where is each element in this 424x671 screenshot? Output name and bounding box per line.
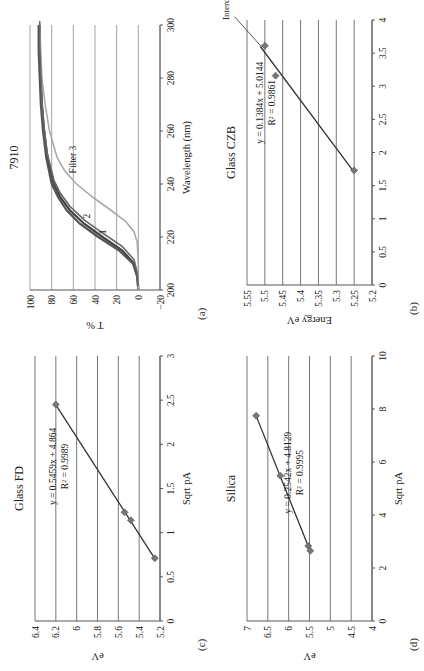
panel-b: Glass CZB5.25.255.35.355.45.455.55.5500.… bbox=[212, 0, 424, 335]
y-tick-label: 7 bbox=[243, 626, 253, 631]
x-tick-label: 3.5 bbox=[378, 47, 388, 59]
intercept-callout-line bbox=[235, 17, 262, 47]
chart-title: Silica bbox=[224, 474, 238, 502]
x-tick-label: 1 bbox=[166, 530, 176, 535]
x-axis-label: Sqrt pA bbox=[181, 472, 192, 505]
r-squared: R² = 0.9995 bbox=[295, 450, 305, 496]
x-tick-label: 0.5 bbox=[166, 571, 176, 583]
panel-a: 7910−20020406080100200220240260280300Wav… bbox=[0, 0, 212, 335]
x-tick-label: 0 bbox=[378, 618, 388, 623]
y-axis-label: T % bbox=[86, 320, 104, 331]
x-tick-label: 1 bbox=[378, 216, 388, 221]
x-axis-label: Sqrt pA bbox=[393, 472, 404, 505]
gridlines bbox=[247, 20, 372, 285]
y-tick-label: 6.4 bbox=[31, 626, 41, 638]
y-tick-label: 5.4 bbox=[296, 290, 306, 302]
y-tick-label: 5.3 bbox=[332, 290, 342, 302]
y-tick-label: 100 bbox=[26, 295, 36, 310]
annotation-2: 2 bbox=[82, 213, 92, 218]
r-squared: R² = 0.9861 bbox=[267, 80, 277, 126]
x-tick-label: 280 bbox=[166, 71, 176, 86]
y-tick-label: 5.55 bbox=[243, 290, 253, 307]
y-axis-label: eV bbox=[303, 651, 316, 662]
y-tick-label: 5.6 bbox=[114, 626, 124, 638]
x-axis-label: Wavelength (nm) bbox=[181, 121, 193, 194]
x-tick-label: 3 bbox=[166, 353, 176, 358]
annotation-1: 1 bbox=[98, 229, 108, 234]
chart-title: Glass FD bbox=[12, 466, 26, 511]
panel-label: (a) bbox=[195, 307, 208, 320]
x-tick-label: 2.5 bbox=[378, 113, 388, 125]
y-tick-label: 4 bbox=[368, 626, 378, 631]
y-tick-label: 4.5 bbox=[347, 626, 357, 638]
y-tick-label: 40 bbox=[91, 295, 101, 305]
y-tick-label: 5.8 bbox=[93, 626, 103, 638]
annotation-filter-3: Filter 3 bbox=[68, 145, 78, 173]
trendline-equation: y = 0.2542x + 4.8129 bbox=[283, 431, 293, 513]
x-tick-label: 0 bbox=[378, 282, 388, 287]
trendline bbox=[56, 405, 155, 559]
x-tick-label: 2.5 bbox=[166, 394, 176, 406]
y-tick-label: 5.25 bbox=[350, 290, 360, 307]
x-tick-label: 2 bbox=[378, 150, 388, 155]
chart-title: Glass CZB bbox=[224, 126, 238, 179]
y-tick-label: 6 bbox=[72, 626, 82, 631]
y-tick-label: 6.5 bbox=[263, 626, 273, 638]
chart-glass-czb: Glass CZB5.25.255.35.355.45.455.55.5500.… bbox=[212, 0, 424, 335]
y-tick-label: 5 bbox=[326, 626, 336, 631]
panel-label: (b) bbox=[407, 302, 420, 315]
chart-silica: Silica44.555.566.570246810Sqrt pAeV(d)y … bbox=[212, 336, 424, 671]
chart-7910: 7910−20020406080100200220240260280300Wav… bbox=[0, 0, 212, 335]
y-tick-label: 5.2 bbox=[156, 626, 166, 638]
panel-label: (d) bbox=[407, 638, 420, 651]
y-tick-label: 20 bbox=[112, 295, 122, 305]
data-point-marker bbox=[253, 412, 260, 419]
y-tick-label: 0 bbox=[134, 295, 144, 300]
y-tick-label: 6.2 bbox=[51, 626, 61, 638]
y-tick-label: 6 bbox=[284, 626, 294, 631]
chart-glass-fd: Glass FD5.25.45.65.866.26.400.511.522.53… bbox=[0, 336, 212, 671]
y-axis-label: Energy eV bbox=[287, 315, 332, 326]
y-tick-label: 5.5 bbox=[260, 290, 270, 302]
x-tick-label: 8 bbox=[378, 406, 388, 411]
x-tick-label: 3 bbox=[378, 84, 388, 89]
gridlines bbox=[247, 356, 372, 621]
x-tick-label: 0.5 bbox=[378, 246, 388, 258]
x-tick-label: 6 bbox=[378, 459, 388, 464]
data-point-marker bbox=[52, 401, 59, 408]
x-tick-label: 2 bbox=[166, 442, 176, 447]
x-tick-label: 4 bbox=[378, 512, 388, 517]
x-tick-label: 220 bbox=[166, 230, 176, 245]
data-point-marker bbox=[272, 72, 279, 79]
panel-label: (c) bbox=[195, 638, 208, 651]
x-tick-label: 200 bbox=[166, 283, 176, 298]
x-tick-label: 260 bbox=[166, 124, 176, 139]
y-axis-label: eV bbox=[91, 651, 104, 662]
y-tick-label: 60 bbox=[69, 295, 79, 305]
x-tick-label: 2 bbox=[378, 565, 388, 570]
x-tick-label: 240 bbox=[166, 177, 176, 192]
x-tick-label: 0 bbox=[166, 618, 176, 623]
y-tick-label: 5.35 bbox=[314, 290, 324, 307]
y-tick-label: 5.5 bbox=[305, 626, 315, 638]
intercept-label: Intercept bbox=[221, 0, 231, 20]
r-squared: R² = 0.9989 bbox=[60, 443, 70, 489]
chart-title: 7910 bbox=[7, 146, 21, 170]
y-tick-label: −20 bbox=[156, 295, 166, 310]
series-line-1 bbox=[40, 25, 139, 290]
x-tick-label: 300 bbox=[166, 18, 176, 33]
trendline-equation: y = 0.5459x + 4.864 bbox=[48, 428, 58, 505]
x-tick-label: 10 bbox=[378, 351, 388, 361]
y-tick-label: 5.4 bbox=[135, 626, 145, 638]
x-tick-label: 4 bbox=[378, 17, 388, 22]
y-tick-label: 5.45 bbox=[278, 290, 288, 307]
trendline-equation: y = 0.1384x + 5.0144 bbox=[255, 62, 265, 144]
y-tick-label: 5.2 bbox=[368, 290, 378, 302]
x-tick-label: 1.5 bbox=[378, 179, 388, 191]
panel-d: Silica44.555.566.570246810Sqrt pAeV(d)y … bbox=[212, 336, 424, 671]
panel-c: Glass FD5.25.45.65.866.26.400.511.522.53… bbox=[0, 336, 212, 671]
x-tick-label: 1.5 bbox=[166, 482, 176, 494]
gridlines bbox=[30, 25, 160, 290]
y-tick-label: 80 bbox=[47, 295, 57, 305]
